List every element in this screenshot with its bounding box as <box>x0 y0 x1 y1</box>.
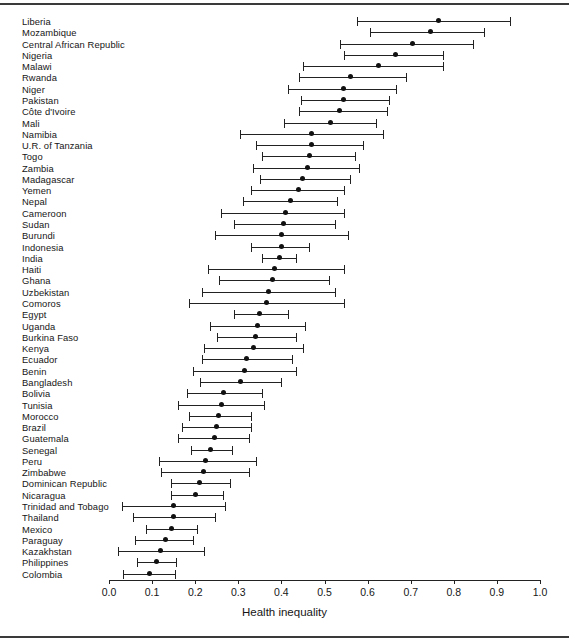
confidence-interval-cap-high <box>348 231 349 240</box>
confidence-interval-cap-low <box>133 513 134 522</box>
confidence-interval-cap-low <box>234 220 235 229</box>
country-row: Nicaragua <box>0 490 569 501</box>
country-label: Paraguay <box>22 535 152 546</box>
country-row: Kazakhstan <box>0 546 569 557</box>
country-label: Côte d'Ivoire <box>22 106 152 117</box>
confidence-interval-cap-low <box>256 141 257 150</box>
estimate-marker <box>300 176 305 181</box>
confidence-interval-cap-low <box>202 288 203 297</box>
estimate-marker <box>279 244 284 249</box>
estimate-marker <box>277 255 282 260</box>
country-row: Peru <box>0 456 569 467</box>
x-axis-tick <box>325 580 326 584</box>
confidence-interval-cap-high <box>197 525 198 534</box>
figure-container: LiberiaMozambiqueCentral African Republi… <box>0 0 569 642</box>
country-row: Mozambique <box>0 27 569 38</box>
confidence-interval-cap-high <box>296 333 297 342</box>
estimate-marker <box>376 63 381 68</box>
x-axis-tick-label: 0.5 <box>305 586 345 598</box>
country-row: Comoros <box>0 298 569 309</box>
country-label: Sudan <box>22 219 152 230</box>
confidence-interval-cap-low <box>243 197 244 206</box>
confidence-interval-cap-high <box>232 446 233 455</box>
x-axis-tick-label: 0.2 <box>175 586 215 598</box>
estimate-marker <box>244 356 249 361</box>
country-label: U.R. of Tanzania <box>22 140 152 151</box>
confidence-interval-cap-low <box>299 73 300 82</box>
confidence-interval-cap-high <box>288 310 289 319</box>
country-label: Mozambique <box>22 27 152 38</box>
x-axis-tick <box>238 580 239 584</box>
estimate-marker <box>171 503 176 508</box>
country-row: Egypt <box>0 309 569 320</box>
x-axis-title: Health inequality <box>0 606 569 618</box>
country-label: Bolivia <box>22 388 152 399</box>
estimate-marker <box>171 514 176 519</box>
confidence-interval-cap-low <box>240 130 241 139</box>
country-label: Nigeria <box>22 50 152 61</box>
confidence-interval-cap-high <box>329 276 330 285</box>
confidence-interval-cap-high <box>303 344 304 353</box>
country-row: Bangladesh <box>0 377 569 388</box>
confidence-interval-cap-low <box>301 96 302 105</box>
confidence-interval-cap-high <box>296 254 297 263</box>
confidence-interval-line <box>357 21 510 22</box>
confidence-interval-cap-high <box>223 491 224 500</box>
estimate-marker <box>238 379 243 384</box>
confidence-interval-cap-high <box>215 513 216 522</box>
estimate-marker <box>163 537 168 542</box>
confidence-interval-cap-low <box>135 536 136 545</box>
x-axis-tick-label: 0.6 <box>348 586 388 598</box>
x-axis-tick-label: 0.8 <box>434 586 474 598</box>
country-label: Burkina Faso <box>22 332 152 343</box>
confidence-interval-cap-low <box>178 434 179 443</box>
confidence-interval-cap-high <box>389 96 390 105</box>
country-label: Morocco <box>22 411 152 422</box>
country-row: Burkina Faso <box>0 332 569 343</box>
confidence-interval-cap-low <box>146 525 147 534</box>
country-row: Nigeria <box>0 50 569 61</box>
x-axis-tick-label: 0.7 <box>391 586 431 598</box>
country-label: Rwanda <box>22 72 152 83</box>
estimate-marker <box>266 289 271 294</box>
confidence-interval-cap-high <box>337 197 338 206</box>
confidence-interval-cap-low <box>219 276 220 285</box>
estimate-marker <box>393 52 398 57</box>
estimate-marker <box>305 165 310 170</box>
confidence-interval-cap-low <box>208 265 209 274</box>
confidence-interval-cap-low <box>303 62 304 71</box>
confidence-interval-cap-low <box>191 446 192 455</box>
estimate-marker <box>154 559 159 564</box>
dot-plot-area: LiberiaMozambiqueCentral African Republi… <box>0 0 569 642</box>
confidence-interval-cap-low <box>262 254 263 263</box>
confidence-interval-cap-high <box>193 536 194 545</box>
country-label: Burundi <box>22 230 152 241</box>
country-label: Ecuador <box>22 354 152 365</box>
confidence-interval-cap-low <box>284 119 285 128</box>
confidence-interval-cap-high <box>262 389 263 398</box>
country-label: Bangladesh <box>22 377 152 388</box>
country-row: U.R. of Tanzania <box>0 140 569 151</box>
confidence-interval-cap-low <box>161 468 162 477</box>
country-row: Ghana <box>0 275 569 286</box>
confidence-interval-cap-high <box>264 401 265 410</box>
country-row: Ecuador <box>0 354 569 365</box>
country-row: Nepal <box>0 196 569 207</box>
country-row: Guatemala <box>0 433 569 444</box>
confidence-interval-line <box>299 111 387 112</box>
confidence-interval-cap-high <box>406 73 407 82</box>
country-label: Tunisia <box>22 400 152 411</box>
estimate-marker <box>341 97 346 102</box>
estimate-marker <box>348 74 353 79</box>
confidence-interval-cap-high <box>204 547 205 556</box>
confidence-interval-cap-high <box>396 85 397 94</box>
confidence-interval-cap-low <box>370 28 371 37</box>
country-label: Cameroon <box>22 208 152 219</box>
confidence-interval-cap-high <box>473 40 474 49</box>
x-axis-tick <box>195 580 196 584</box>
estimate-marker <box>203 458 208 463</box>
country-row: Colombia <box>0 569 569 580</box>
confidence-interval-cap-high <box>230 479 231 488</box>
confidence-interval-cap-low <box>234 310 235 319</box>
country-row: Niger <box>0 84 569 95</box>
